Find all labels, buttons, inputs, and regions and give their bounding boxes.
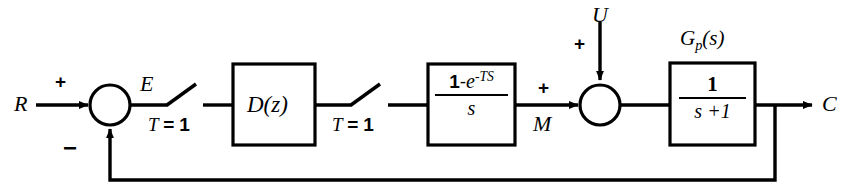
sampler2-blade <box>351 84 380 105</box>
sampler-2-label-var: T <box>332 114 343 135</box>
disturbance-summer-circle <box>580 85 620 125</box>
plant-caption: Gp(s) <box>680 28 724 52</box>
sampler1-blade <box>167 84 196 105</box>
label-feedback-minus-sign: − <box>63 136 77 160</box>
sampler-1-label-var: T <box>148 114 159 135</box>
sampler-2-label-value: 1 <box>363 114 374 135</box>
label-reference-plus-sign: + <box>55 72 66 91</box>
sampler-2-label-eq: = <box>347 114 358 135</box>
zoh-fraction-bar <box>435 94 508 96</box>
plant-fraction-bar <box>679 97 746 99</box>
plant-expression: 1 s +1 <box>679 72 746 123</box>
plant-caption-arg: (s) <box>702 26 724 50</box>
plant-caption-base: G <box>680 26 695 50</box>
sampler-1-label-value: 1 <box>179 114 190 135</box>
label-output-signal: C <box>822 93 837 115</box>
zoh-num-exponent: -TS <box>475 69 494 84</box>
zoh-numerator: 1-e-TS <box>435 69 508 93</box>
label-error-signal: E <box>140 73 153 95</box>
plant-numerator: 1 <box>679 72 746 96</box>
zoh-num-one: 1 <box>449 71 460 92</box>
zoh-num-e: e <box>466 70 475 92</box>
sampler-1-label-eq: = <box>163 114 174 135</box>
block-diagram-canvas: R + − E T = 1 T = 1 D(z) 1-e-TS s + M U … <box>0 0 847 194</box>
zero-order-hold-expression: 1-e-TS s <box>435 69 508 120</box>
sampler-2-label: T = 1 <box>332 115 374 134</box>
label-manipulated-signal: M <box>533 113 551 135</box>
error-summer-circle <box>90 85 130 125</box>
sampler-1-label: T = 1 <box>148 115 190 134</box>
plant-denominator: s +1 <box>679 100 746 123</box>
digital-controller-label: D(z) <box>247 93 288 116</box>
label-disturbance-input: U <box>592 4 608 26</box>
label-manipulated-plus-sign: + <box>538 78 549 97</box>
label-reference-input: R <box>14 93 27 115</box>
zoh-denominator: s <box>435 97 508 120</box>
label-disturbance-plus-sign: + <box>574 34 585 53</box>
